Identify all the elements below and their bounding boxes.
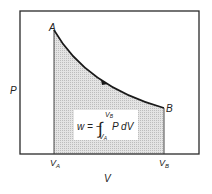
integrand: P dV xyxy=(112,121,135,132)
upper-limit: VB xyxy=(105,111,114,119)
pv-diagram: w = − ∫ VB VA P dV A B P V VA VB xyxy=(0,0,212,194)
vb-tick-label: VB xyxy=(159,158,169,169)
va-tick-label: VA xyxy=(50,158,60,169)
y-axis-label: P xyxy=(10,85,17,96)
lower-limit: VA xyxy=(99,133,108,141)
x-axis-label: V xyxy=(104,173,112,184)
point-b-label: B xyxy=(166,103,173,114)
point-a-label: A xyxy=(48,22,56,33)
